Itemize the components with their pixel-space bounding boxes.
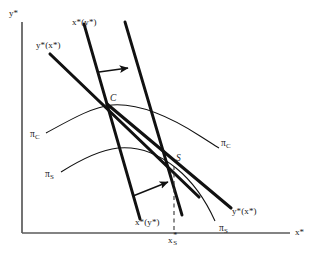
x-of-y-shifted-line [125, 22, 182, 215]
x-axis-label: x* [295, 228, 304, 237]
pi-c-right-label: πC [221, 139, 231, 150]
y-of-x-through-c-line [50, 54, 199, 197]
point-label-s: S [176, 154, 181, 164]
pi-c-left-subscript: C [35, 133, 40, 141]
tick-base-letter: x [168, 235, 173, 245]
y-of-x-through-s-line [107, 104, 231, 208]
isoprofit-curves-group [46, 105, 219, 221]
curve-label-y-of-x-bottom: y*(x*) [232, 207, 257, 216]
tick-subscript: S [173, 240, 177, 247]
pi-s-right-label: πS [219, 224, 228, 235]
shift-arrow-lower [133, 182, 168, 196]
curve-label-x-of-y-top: x*(y*) [72, 18, 97, 27]
x-of-y-original-line [84, 24, 140, 219]
tick-base: x*S [168, 235, 173, 245]
pi-s-right-subscript: S [224, 227, 228, 235]
curve-label-x-of-y-bottom: x*(y*) [135, 218, 160, 227]
economics-diagram: y* x* x*(y*) y*(x*) x*(y*) y*(x*) πC πC … [0, 0, 320, 269]
pi-c-left-label: πC [30, 130, 40, 141]
pi-s-left-label: πS [45, 170, 54, 181]
curve-label-y-of-x-top: y*(x*) [36, 41, 61, 50]
reaction-lines-group [50, 22, 231, 219]
x-axis-tick-label-xs: x*S [168, 236, 173, 245]
shift-arrow-upper [99, 68, 128, 72]
pi-s-left-subscript: S [50, 173, 54, 181]
pi-c-right-subscript: C [226, 142, 231, 150]
point-label-c: C [110, 94, 116, 104]
y-axis-label: y* [9, 9, 18, 18]
